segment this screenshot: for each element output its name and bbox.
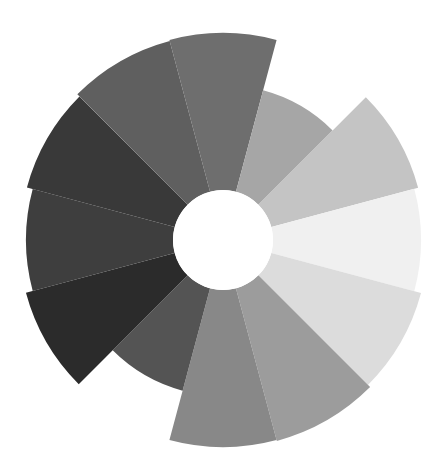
polar-area-chart xyxy=(0,0,447,470)
chart-canvas xyxy=(0,0,447,470)
center-hole xyxy=(173,190,273,290)
